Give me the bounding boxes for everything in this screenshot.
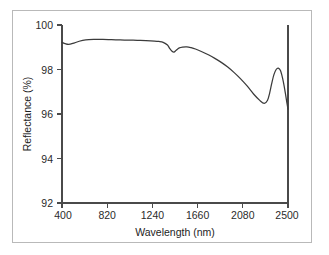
- x-axis-title: Wavelength (nm): [135, 226, 215, 238]
- x-tick-label-400: 400: [54, 209, 72, 221]
- reflectance-curve: [62, 39, 288, 109]
- x-tick-label-1240: 1240: [141, 209, 165, 221]
- y-axis-title: Reflectance (%): [21, 77, 33, 152]
- y-tick-label-98: 98: [41, 64, 53, 76]
- y-axis: 100 98 96 94 92 Reflectance (%): [21, 19, 62, 209]
- reflectance-spectrum-chart: 100 98 96 94 92 Reflectance (%) 400 820: [0, 0, 329, 255]
- y-tick-label-92: 92: [41, 197, 53, 209]
- y-tick-label-100: 100: [35, 19, 53, 31]
- x-axis-ticks: [62, 203, 288, 208]
- x-tick-label-1660: 1660: [186, 209, 210, 221]
- y-tick-label-94: 94: [41, 153, 53, 165]
- chart-svg: 100 98 96 94 92 Reflectance (%) 400 820: [0, 0, 329, 255]
- x-tick-label-2080: 2080: [231, 209, 255, 221]
- x-tick-labels: 400 820 1240 1660 2080 2500: [54, 209, 299, 221]
- y-tick-labels: 100 98 96 94 92: [35, 19, 53, 209]
- y-axis-ticks: [57, 25, 62, 203]
- x-tick-label-820: 820: [98, 209, 116, 221]
- y-tick-label-96: 96: [41, 108, 53, 120]
- x-axis: 400 820 1240 1660 2080 2500 Wavelength (…: [54, 203, 299, 238]
- x-tick-label-2500: 2500: [275, 209, 299, 221]
